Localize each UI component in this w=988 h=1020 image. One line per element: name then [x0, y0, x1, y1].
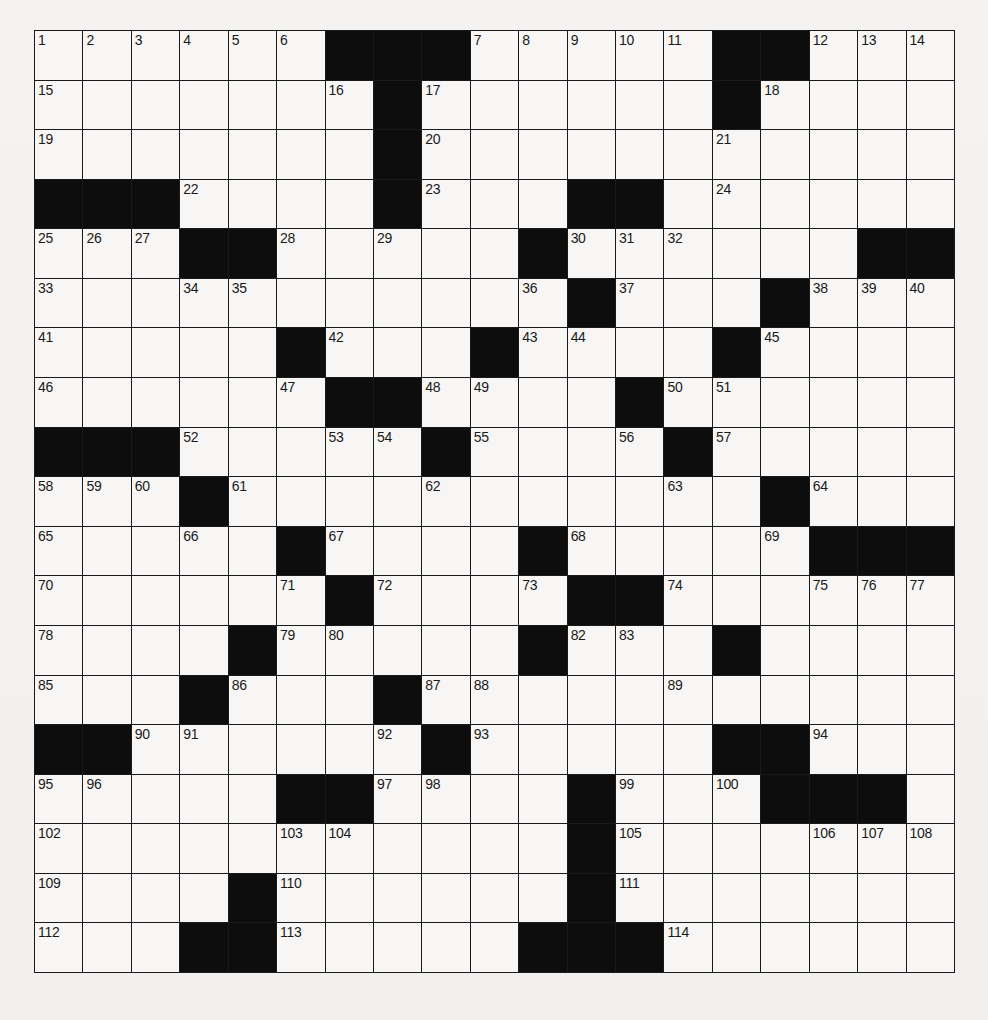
grid-cell[interactable] — [132, 775, 179, 824]
grid-cell[interactable] — [761, 130, 808, 179]
grid-cell[interactable]: 97 — [374, 775, 421, 824]
grid-cell[interactable]: 1 — [35, 31, 82, 80]
grid-cell[interactable]: 68 — [568, 527, 615, 576]
grid-cell[interactable] — [858, 130, 905, 179]
grid-cell[interactable] — [374, 824, 421, 873]
grid-cell[interactable] — [761, 626, 808, 675]
grid-cell[interactable]: 61 — [229, 477, 276, 526]
grid-cell[interactable] — [664, 130, 711, 179]
grid-cell[interactable] — [761, 923, 808, 972]
grid-cell[interactable] — [471, 874, 518, 923]
grid-cell[interactable] — [422, 328, 469, 377]
grid-cell[interactable] — [132, 824, 179, 873]
grid-cell[interactable] — [519, 81, 566, 130]
grid-cell[interactable] — [277, 130, 324, 179]
grid-cell[interactable] — [277, 725, 324, 774]
grid-cell[interactable] — [180, 130, 227, 179]
grid-cell[interactable]: 8 — [519, 31, 566, 80]
grid-cell[interactable] — [858, 477, 905, 526]
grid-cell[interactable] — [761, 428, 808, 477]
grid-cell[interactable] — [810, 676, 857, 725]
grid-cell[interactable]: 74 — [664, 576, 711, 625]
grid-cell[interactable] — [761, 180, 808, 229]
grid-cell[interactable]: 65 — [35, 527, 82, 576]
grid-cell[interactable] — [277, 180, 324, 229]
grid-cell[interactable]: 69 — [761, 527, 808, 576]
grid-cell[interactable] — [616, 725, 663, 774]
grid-cell[interactable]: 32 — [664, 229, 711, 278]
grid-cell[interactable] — [568, 81, 615, 130]
grid-cell[interactable] — [180, 626, 227, 675]
grid-cell[interactable] — [422, 923, 469, 972]
grid-cell[interactable] — [713, 824, 760, 873]
grid-cell[interactable] — [858, 923, 905, 972]
grid-cell[interactable]: 71 — [277, 576, 324, 625]
grid-cell[interactable] — [374, 527, 421, 576]
grid-cell[interactable]: 73 — [519, 576, 566, 625]
grid-cell[interactable] — [374, 477, 421, 526]
grid-cell[interactable]: 51 — [713, 378, 760, 427]
grid-cell[interactable] — [810, 180, 857, 229]
grid-cell[interactable]: 53 — [326, 428, 373, 477]
grid-cell[interactable]: 44 — [568, 328, 615, 377]
grid-cell[interactable] — [713, 676, 760, 725]
grid-cell[interactable]: 99 — [616, 775, 663, 824]
grid-cell[interactable]: 18 — [761, 81, 808, 130]
grid-cell[interactable]: 2 — [83, 31, 130, 80]
grid-cell[interactable] — [471, 477, 518, 526]
grid-cell[interactable]: 15 — [35, 81, 82, 130]
grid-cell[interactable] — [326, 477, 373, 526]
grid-cell[interactable]: 86 — [229, 676, 276, 725]
grid-cell[interactable]: 33 — [35, 279, 82, 328]
grid-cell[interactable] — [471, 576, 518, 625]
grid-cell[interactable]: 55 — [471, 428, 518, 477]
grid-cell[interactable] — [229, 328, 276, 377]
grid-cell[interactable]: 93 — [471, 725, 518, 774]
grid-cell[interactable] — [471, 527, 518, 576]
grid-cell[interactable] — [858, 378, 905, 427]
grid-cell[interactable]: 46 — [35, 378, 82, 427]
grid-cell[interactable]: 31 — [616, 229, 663, 278]
grid-cell[interactable]: 89 — [664, 676, 711, 725]
grid-cell[interactable] — [326, 874, 373, 923]
grid-cell[interactable] — [761, 824, 808, 873]
grid-cell[interactable]: 76 — [858, 576, 905, 625]
grid-cell[interactable]: 113 — [277, 923, 324, 972]
grid-cell[interactable]: 22 — [180, 180, 227, 229]
grid-cell[interactable] — [519, 676, 566, 725]
grid-cell[interactable] — [713, 279, 760, 328]
grid-cell[interactable] — [810, 328, 857, 377]
grid-cell[interactable] — [907, 130, 954, 179]
grid-cell[interactable]: 88 — [471, 676, 518, 725]
grid-cell[interactable]: 60 — [132, 477, 179, 526]
grid-cell[interactable] — [229, 527, 276, 576]
grid-cell[interactable]: 106 — [810, 824, 857, 873]
grid-cell[interactable] — [907, 180, 954, 229]
grid-cell[interactable]: 52 — [180, 428, 227, 477]
grid-cell[interactable] — [810, 428, 857, 477]
grid-cell[interactable] — [568, 378, 615, 427]
grid-cell[interactable]: 11 — [664, 31, 711, 80]
grid-cell[interactable] — [568, 428, 615, 477]
grid-cell[interactable]: 6 — [277, 31, 324, 80]
grid-cell[interactable] — [907, 477, 954, 526]
grid-cell[interactable]: 36 — [519, 279, 566, 328]
grid-cell[interactable]: 34 — [180, 279, 227, 328]
grid-cell[interactable] — [907, 81, 954, 130]
grid-cell[interactable] — [326, 180, 373, 229]
grid-cell[interactable] — [180, 81, 227, 130]
grid-cell[interactable] — [907, 378, 954, 427]
grid-cell[interactable]: 111 — [616, 874, 663, 923]
grid-cell[interactable]: 83 — [616, 626, 663, 675]
grid-cell[interactable] — [374, 328, 421, 377]
grid-cell[interactable]: 85 — [35, 676, 82, 725]
grid-cell[interactable]: 92 — [374, 725, 421, 774]
grid-cell[interactable] — [810, 626, 857, 675]
grid-cell[interactable] — [374, 923, 421, 972]
grid-cell[interactable]: 4 — [180, 31, 227, 80]
grid-cell[interactable]: 29 — [374, 229, 421, 278]
grid-cell[interactable] — [132, 81, 179, 130]
grid-cell[interactable] — [858, 180, 905, 229]
grid-cell[interactable] — [471, 180, 518, 229]
grid-cell[interactable]: 26 — [83, 229, 130, 278]
